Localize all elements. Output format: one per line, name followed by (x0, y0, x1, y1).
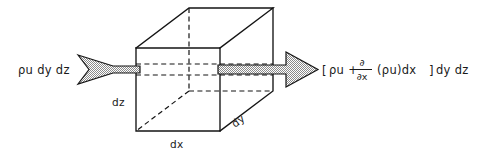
outflow-term-rho-u-dx: (ρu)dx (377, 63, 416, 77)
inflow-arrow-group (78, 55, 140, 84)
figure-canvas: ρu dy dz [ ρu + ∂ ∂x (ρu)dx ] dy dz dz d… (0, 0, 484, 154)
inflow-label: ρu dy dz (18, 63, 70, 77)
dimension-label-dz: dz (112, 96, 125, 108)
outflow-term-rho-u: ρu + (329, 63, 358, 77)
flow-through-control-volume-figure: ρu dy dz [ ρu + ∂ ∂x (ρu)dx ] dy dz dz d… (0, 0, 484, 154)
outflow-open-bracket: [ (322, 64, 327, 78)
partial-numerator: ∂ (360, 57, 365, 68)
block-arrow-right-icon (218, 52, 318, 87)
dimension-label-dy: dy (229, 112, 247, 130)
dimension-label-dx: dx (170, 138, 183, 150)
swallowtail-arrow-right-icon (78, 55, 140, 84)
outflow-term-dy-dz: dy dz (436, 63, 469, 77)
outflow-label-group: [ ρu + ∂ ∂x (ρu)dx ] dy dz (322, 57, 469, 82)
outflow-close-bracket: ] (429, 64, 434, 78)
partial-denominator: ∂x (357, 71, 368, 82)
outflow-arrow-group (218, 52, 318, 87)
partial-derivative-fraction: ∂ ∂x (354, 57, 372, 82)
